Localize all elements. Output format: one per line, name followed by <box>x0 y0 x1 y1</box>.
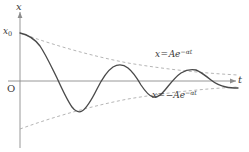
damped-oscillation-curve <box>20 33 238 112</box>
upper-envelope-equation: x=Ae−αt <box>155 49 192 59</box>
initial-amplitude-subscript: 0 <box>8 30 12 38</box>
lower-envelope-equation: x=−Ae−αt <box>152 90 197 100</box>
vertical-axis-label: x <box>16 2 22 12</box>
horizontal-axis-arrow <box>230 79 236 84</box>
vertical-axis-arrow <box>18 12 23 18</box>
initial-amplitude-label: x0 <box>3 27 12 37</box>
upper-eq-exponent: −αt <box>180 48 192 55</box>
origin-label: O <box>7 84 15 94</box>
upper-eq-equals: = <box>160 49 169 59</box>
horizontal-axis-label: t <box>238 75 242 85</box>
lower-eq-coefficient: −Ae <box>166 90 185 100</box>
lower-envelope-curve <box>20 87 238 129</box>
lower-eq-equals: = <box>157 90 166 100</box>
figure-container: x t O x0 x=Ae−αt x=−Ae−αt <box>0 0 249 152</box>
upper-eq-coefficient: Ae <box>169 49 181 59</box>
lower-eq-exponent: −αt <box>185 89 197 96</box>
plot-canvas <box>0 0 249 152</box>
